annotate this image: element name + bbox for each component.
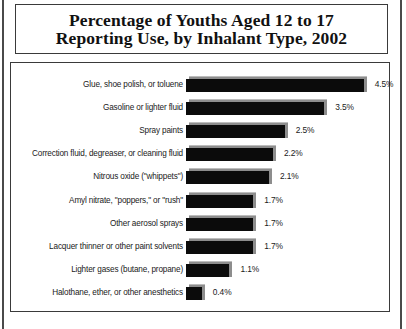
bar-front-face [186,241,253,254]
bar-row: Correction fluid, degreaser, or cleaning… [11,142,389,165]
chart-title: Percentage of Youths Aged 12 to 17 Repor… [56,11,347,47]
category-label: Gasoline or lighter fluid [103,102,183,111]
bar-top-face [189,122,288,125]
bar-row: Lacquer thinner or other paint solvents1… [11,234,389,257]
bar-row: Spray paints2.5% [11,118,389,141]
bar [186,261,232,277]
bar [186,238,256,254]
bar-top-face [189,99,327,102]
bar-row: Lighter gases (butane, propane)1.1% [11,258,389,281]
bar-top-face [189,238,256,241]
bar-row: Other aerosol sprays1.7% [11,211,389,234]
bar-row: Gasoline or lighter fluid3.5% [11,95,389,118]
page-rule-right [400,0,402,329]
bar [186,284,205,300]
bar-top-face [189,215,256,218]
bar-value-label: 1.1% [240,264,259,274]
bar-front-face [186,195,253,208]
bar [186,168,272,184]
bar-value-label: 2.5% [296,125,315,135]
bar-front-face [186,125,285,138]
bar-row: Amyl nitrate, "poppers," or "rush"1.7% [11,188,389,211]
bar-front-face [186,171,269,184]
bar [186,99,327,115]
bar-value-label: 1.7% [264,218,283,228]
bar-value-label: 4.5% [375,79,394,89]
category-label: Lacquer thinner or other paint solvents [49,241,183,250]
page-rule-left [2,0,4,329]
bar-value-label: 3.5% [335,102,354,112]
bar-value-label: 0.4% [213,287,232,297]
bar-row: Nitrous oxide ("whippets")2.1% [11,165,389,188]
figure-container: Percentage of Youths Aged 12 to 17 Repor… [0,0,406,329]
bar [186,122,288,138]
bar-front-face [186,102,324,115]
bar-chart-plot-area: Glue, shoe polish, or toluene4.5%Gasolin… [11,63,389,311]
bar-front-face [186,264,229,277]
bar-top-face [189,76,367,79]
category-label: Lighter gases (butane, propane) [71,265,183,274]
bar-front-face [186,79,364,92]
bar-top-face [189,145,276,148]
category-label: Other aerosol sprays [110,218,183,227]
bar-top-face [189,192,256,195]
bar-front-face [186,287,202,300]
chart-title-box: Percentage of Youths Aged 12 to 17 Repor… [15,4,388,54]
bar-top-face [189,261,232,264]
bar-front-face [186,218,253,231]
bar [186,145,276,161]
category-label: Correction fluid, degreaser, or cleaning… [32,149,183,158]
category-label: Amyl nitrate, "poppers," or "rush" [69,195,183,204]
category-label: Glue, shoe polish, or toluene [83,79,183,88]
bar-value-label: 2.2% [284,148,303,158]
bar-top-face [189,284,205,287]
bar-top-face [189,168,272,171]
bar-row: Halothane, ether, or other anesthetics0.… [11,281,389,304]
bar-value-label: 1.7% [264,241,283,251]
bar [186,215,256,231]
bar-value-label: 2.1% [280,171,299,181]
bar-row: Glue, shoe polish, or toluene4.5% [11,72,389,95]
bar [186,192,256,208]
category-label: Nitrous oxide ("whippets") [93,172,183,181]
bar-front-face [186,148,273,161]
bar [186,76,367,92]
bar-value-label: 1.7% [264,195,283,205]
chart-plot-box: Glue, shoe polish, or toluene4.5%Gasolin… [10,62,390,312]
category-label: Halothane, ether, or other anesthetics [52,288,183,297]
category-label: Spray paints [139,125,183,134]
